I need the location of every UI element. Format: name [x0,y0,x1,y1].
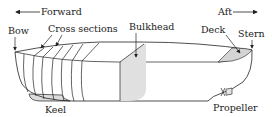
propeller-icon [221,88,232,96]
aft-label: Aft [217,6,232,17]
aft-indicator: Aft [217,6,257,17]
bulkhead-callout: Bulkhead [129,21,174,57]
keel-callout: Keel [45,104,66,115]
propeller-label: Propeller [213,102,258,113]
stern-callout: Stern [238,28,265,48]
cross-sections-label: Cross sections [48,23,118,34]
forward-indicator: Forward [16,6,82,17]
propeller-callout: Propeller [213,102,258,113]
bow-label: Bow [8,25,29,36]
ship-hull-diagram: Forward Aft [0,0,272,117]
bulkhead-label: Bulkhead [129,21,174,32]
bow-callout: Bow [8,25,29,50]
forward-label: Forward [41,6,82,17]
deck-label: Deck [201,24,226,35]
cross-sections [24,43,100,101]
hull [15,42,252,101]
cross-sections-callout: Cross sections [41,23,118,48]
stern-label: Stern [238,28,265,39]
keel-label: Keel [45,104,66,115]
aft-deck-shaded [218,48,252,62]
